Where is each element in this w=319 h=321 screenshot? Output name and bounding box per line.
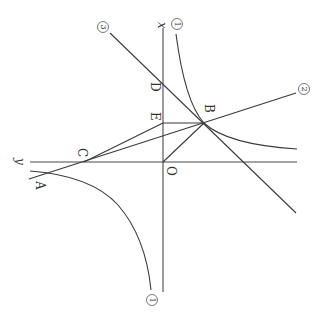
svg-text:3: 3 <box>99 25 108 30</box>
point-c-label: C <box>75 148 89 157</box>
coordinate-diagram: x y O A B C D E 1 1 2 3 <box>0 0 319 321</box>
svg-text:1: 1 <box>173 22 182 27</box>
segment-c-e <box>84 123 163 162</box>
point-b-label: B <box>202 104 216 113</box>
point-a-label: A <box>33 180 47 190</box>
label-circle-1-top: 1 <box>172 19 183 30</box>
y-axis-label: y <box>13 157 27 165</box>
label-circle-2: 2 <box>299 84 310 95</box>
hyperbola-branch-lower <box>30 171 151 290</box>
label-circle-3: 3 <box>98 22 109 33</box>
label-circle-1-bottom: 1 <box>147 295 158 306</box>
point-e-label: E <box>148 112 162 121</box>
point-d-label: D <box>148 82 162 92</box>
origin-label: O <box>164 166 178 176</box>
svg-text:1: 1 <box>148 298 157 303</box>
x-axis-label: x <box>155 22 169 29</box>
svg-text:2: 2 <box>300 87 309 92</box>
